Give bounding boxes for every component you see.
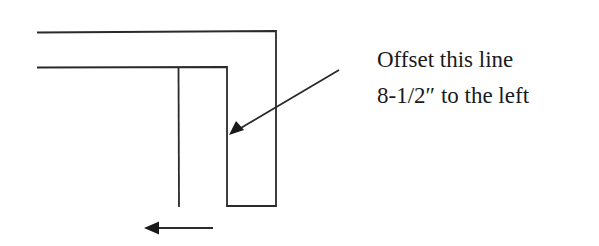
- offset-target-line: [179, 67, 180, 207]
- diagram-canvas: [0, 0, 599, 246]
- pointer-arrow-icon: [229, 70, 339, 135]
- annotation-line-2: 8-1/2″ to the left: [377, 78, 529, 114]
- instruction-annotation: Offset this line 8-1/2″ to the left: [377, 42, 529, 114]
- left-direction-arrow-icon: [144, 222, 213, 235]
- wall-outline: [37, 31, 276, 206]
- annotation-line-1: Offset this line: [377, 42, 529, 78]
